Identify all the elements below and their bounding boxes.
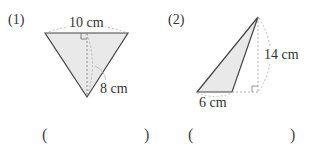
problem-2-base-label: 6 cm — [199, 96, 227, 110]
answer-2-open-paren: ( — [188, 127, 193, 143]
figure-2-triangle — [197, 17, 271, 97]
problem-2-number: (2) — [168, 13, 184, 27]
problem-1-height-label: 8 cm — [100, 82, 128, 96]
problem-2-height-label: 14 cm — [264, 48, 299, 62]
problem-1-base-label: 10 cm — [68, 16, 105, 30]
answer-1-open-paren: ( — [42, 127, 47, 143]
answer-1-close-paren: ) — [144, 127, 149, 143]
answer-2-close-paren: ) — [290, 127, 295, 143]
problem-1-number: (1) — [8, 13, 24, 27]
